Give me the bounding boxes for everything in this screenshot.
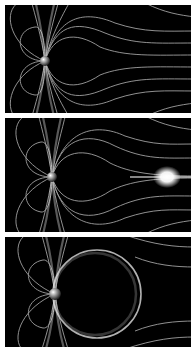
plasma-blob bbox=[153, 166, 181, 188]
panel-1 bbox=[5, 5, 191, 113]
planet-icon bbox=[47, 172, 57, 182]
field-lines-diagram-1 bbox=[5, 5, 191, 113]
panel-3 bbox=[5, 237, 191, 347]
field-lines-diagram-3 bbox=[5, 237, 191, 347]
planet-icon bbox=[49, 288, 61, 300]
planet-icon bbox=[40, 56, 50, 66]
panel-2 bbox=[5, 118, 191, 232]
field-lines-diagram-2 bbox=[5, 118, 191, 232]
